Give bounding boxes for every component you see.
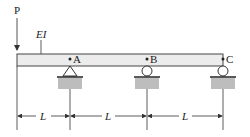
dimension-label-2: L: [105, 111, 111, 122]
load-label: P: [14, 5, 20, 16]
beam: [17, 54, 223, 66]
beam-diagram: P EI A B C L L L: [0, 0, 250, 137]
roller-support-icon: [142, 66, 152, 76]
dimension-label-3: L: [182, 111, 188, 122]
point-label-b: B: [150, 54, 157, 65]
dimension-label-1: L: [40, 111, 46, 122]
beam-drawing: [0, 0, 250, 137]
point-label-a: A: [73, 54, 81, 65]
point-label-c: C: [226, 54, 233, 65]
stiffness-label: EI: [36, 29, 46, 40]
pin-support-icon: [63, 66, 77, 76]
roller-support-icon: [218, 66, 228, 76]
